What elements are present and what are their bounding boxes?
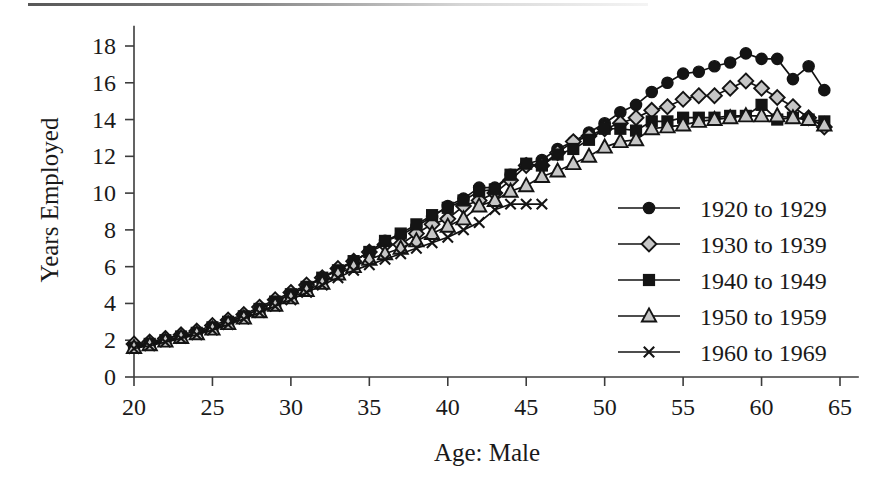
- x-tick-label: 60: [750, 394, 774, 420]
- y-tick-label: 12: [92, 143, 116, 169]
- x-tick-label: 25: [200, 394, 224, 420]
- data-point-marker: [458, 225, 468, 235]
- y-axis-title: Years Employed: [36, 117, 63, 282]
- y-tick-label: 2: [104, 327, 116, 353]
- y-tick-label: 0: [104, 364, 116, 390]
- data-point-marker: [443, 232, 453, 242]
- data-point-marker: [550, 163, 564, 176]
- data-point-marker: [458, 195, 469, 206]
- data-point-marker: [643, 202, 654, 213]
- data-point-marker: [456, 211, 470, 224]
- data-point-marker: [474, 217, 484, 227]
- x-tick-label: 65: [828, 394, 852, 420]
- data-point-marker: [738, 74, 753, 89]
- data-point-marker: [756, 53, 767, 64]
- data-point-marker: [740, 48, 751, 59]
- data-point-marker: [646, 86, 657, 97]
- data-point-marker: [411, 219, 422, 230]
- legend-label: 1940 to 1949: [700, 268, 827, 294]
- data-point-marker: [678, 68, 689, 79]
- y-axis-ticks: 024681012141618: [92, 33, 134, 390]
- legend-item-4[interactable]: 1950 to 1959: [618, 304, 827, 330]
- data-point-marker: [725, 57, 736, 68]
- legend-label: 1920 to 1929: [700, 196, 827, 222]
- x-tick-label: 20: [122, 394, 146, 420]
- y-tick-label: 6: [104, 254, 116, 280]
- data-point-marker: [442, 202, 453, 213]
- data-point-marker: [642, 308, 656, 321]
- data-point-marker: [427, 210, 438, 221]
- data-point-marker: [819, 85, 830, 96]
- data-point-marker: [505, 169, 516, 180]
- data-point-marker: [754, 81, 769, 96]
- data-point-marker: [629, 110, 644, 125]
- legend-item-3[interactable]: 1940 to 1949: [618, 268, 827, 294]
- y-tick-label: 10: [92, 180, 116, 206]
- x-tick-label: 55: [671, 394, 695, 420]
- x-tick-label: 50: [593, 394, 617, 420]
- x-tick-label: 30: [279, 394, 303, 420]
- data-point-marker: [803, 61, 814, 72]
- data-point-marker: [662, 77, 673, 88]
- data-point-marker: [519, 178, 533, 191]
- x-tick-label: 35: [357, 394, 381, 420]
- data-point-marker: [521, 158, 532, 169]
- legend-item-1[interactable]: 1920 to 1929: [618, 196, 827, 222]
- line-chart-canvas: 024681012141618 20253035404550556065 Yea…: [0, 0, 894, 489]
- data-point-marker: [644, 275, 655, 286]
- legend-label: 1950 to 1959: [700, 304, 827, 330]
- data-point-marker: [772, 53, 783, 64]
- scan-line-artifact: [28, 3, 648, 6]
- x-tick-label: 45: [514, 394, 538, 420]
- data-point-marker: [660, 99, 675, 114]
- chart-figure: 024681012141618 20253035404550556065 Yea…: [0, 0, 894, 489]
- y-tick-label: 8: [104, 217, 116, 243]
- data-point-marker: [787, 74, 798, 85]
- data-point-marker: [584, 134, 595, 145]
- x-axis-ticks: 20253035404550556065: [122, 377, 852, 420]
- data-point-marker: [582, 149, 596, 162]
- legend-item-5[interactable]: 1960 to 1969: [618, 340, 827, 366]
- data-point-marker: [709, 61, 720, 72]
- legend-label: 1930 to 1939: [700, 232, 827, 258]
- data-point-marker: [630, 99, 641, 110]
- data-point-marker: [770, 90, 785, 105]
- series-5: [129, 199, 547, 354]
- legend-item-2[interactable]: 1930 to 1939: [618, 232, 827, 258]
- data-point-marker: [707, 88, 722, 103]
- x-axis-title: Age: Male: [434, 439, 540, 466]
- data-point-marker: [552, 149, 563, 160]
- data-point-marker: [642, 237, 657, 252]
- data-point-marker: [693, 66, 704, 77]
- data-point-marker: [566, 156, 580, 169]
- x-tick-label: 40: [436, 394, 460, 420]
- data-point-marker: [676, 92, 691, 107]
- y-tick-label: 16: [92, 70, 116, 96]
- y-tick-label: 14: [92, 107, 116, 133]
- data-point-marker: [599, 123, 610, 134]
- data-point-marker: [723, 81, 738, 96]
- chart-legend: 1920 to 19291930 to 19391940 to 19491950…: [618, 196, 827, 366]
- y-tick-label: 4: [104, 290, 116, 316]
- legend-label: 1960 to 1969: [700, 340, 827, 366]
- y-tick-label: 18: [92, 33, 116, 59]
- data-point-marker: [395, 228, 406, 239]
- data-point-marker: [691, 88, 706, 103]
- data-point-marker: [568, 144, 579, 155]
- data-point-marker: [474, 186, 485, 197]
